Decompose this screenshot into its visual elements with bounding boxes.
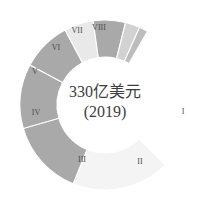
- pie-segment-label-i: I: [182, 107, 185, 116]
- pie-segment-label-iv: IV: [32, 108, 41, 117]
- pie-segment-label-viii: VIII: [92, 23, 106, 32]
- pie-segment-label-vi: VI: [52, 43, 61, 52]
- donut-segments-group: [20, 20, 165, 190]
- pie-segment-label-v: V: [32, 67, 38, 76]
- donut-chart-svg: IIIIIIIVVVIVIIVIII: [0, 0, 213, 207]
- pie-segment-i[interactable]: [73, 139, 165, 190]
- pie-segment-label-vii: VII: [71, 26, 82, 35]
- pie-segment-ii[interactable]: [23, 118, 87, 184]
- pie-segment-label-iii: III: [78, 155, 86, 164]
- donut-chart: IIIIIIIVVVIVIIVIII 330亿美元 (2019): [0, 0, 213, 207]
- pie-segment-label-ii: II: [137, 157, 143, 166]
